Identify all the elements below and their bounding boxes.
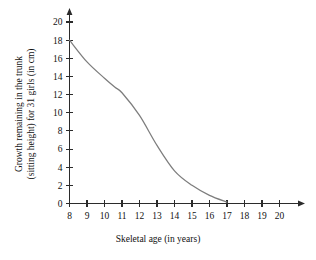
- y-tick-label: 14: [53, 72, 63, 82]
- y-axis-arrow-icon: [67, 8, 73, 15]
- x-tick-label: 17: [222, 211, 232, 221]
- data-series-growth-remaining: [70, 40, 228, 202]
- y-tick-label: 2: [58, 181, 63, 191]
- y-axis-title-line-1: Growth remaining in the trunk: [14, 14, 26, 214]
- x-tick-label: 14: [170, 211, 180, 221]
- y-tick-label: 20: [53, 17, 63, 27]
- x-tick-label: 13: [152, 211, 162, 221]
- y-tick-label: 18: [53, 36, 63, 46]
- chart-container: 02468101214161820 8910111213141516171819…: [0, 0, 316, 260]
- x-tick-label: 12: [135, 211, 145, 221]
- x-tick-label: 16: [205, 211, 215, 221]
- y-tick-label: 8: [58, 126, 63, 136]
- y-tick-label: 10: [53, 108, 63, 118]
- y-tick-label: 4: [58, 163, 63, 173]
- x-tick-label: 19: [257, 211, 267, 221]
- x-tick-label: 20: [275, 211, 285, 221]
- x-tick-label: 8: [67, 211, 72, 221]
- x-tick-label: 11: [117, 211, 126, 221]
- y-axis-title: Growth remaining in the trunk (sitting h…: [14, 14, 37, 214]
- x-axis-arrow-icon: [298, 201, 305, 207]
- y-axis-title-line-2: (sitting height) for 31 girls (in cm): [26, 14, 38, 214]
- y-axis: [67, 8, 73, 204]
- x-tick-label: 18: [240, 211, 250, 221]
- x-tick-label: 9: [85, 211, 90, 221]
- x-tick-label: 15: [187, 211, 197, 221]
- y-tick-label: 16: [53, 54, 63, 64]
- x-tick-label: 10: [100, 211, 110, 221]
- chart-plot-area: 02468101214161820 8910111213141516171819…: [0, 0, 316, 260]
- x-axis-title: Skeletal age (in years): [0, 234, 316, 246]
- y-tick-label: 0: [58, 199, 63, 209]
- y-tick-label: 12: [53, 90, 63, 100]
- y-tick-label: 6: [58, 144, 63, 154]
